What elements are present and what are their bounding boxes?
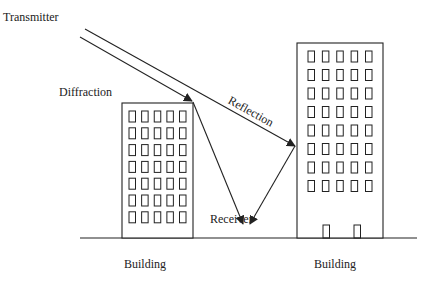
building-left — [122, 103, 193, 238]
diagram-graphics — [0, 0, 438, 286]
ray-diffracted — [193, 102, 243, 224]
building-right — [297, 43, 383, 238]
building-right-label: Building — [314, 258, 356, 270]
transmitter-label: Transmitter — [3, 11, 59, 23]
building-left-label: Building — [124, 258, 166, 270]
diffraction-label: Diffraction — [59, 86, 112, 98]
receiver-label: Receiver — [210, 213, 253, 225]
propagation-diagram: Transmitter Diffraction Reflection Recei… — [0, 0, 438, 286]
ray-reflected — [250, 146, 295, 224]
buildings — [122, 43, 383, 238]
